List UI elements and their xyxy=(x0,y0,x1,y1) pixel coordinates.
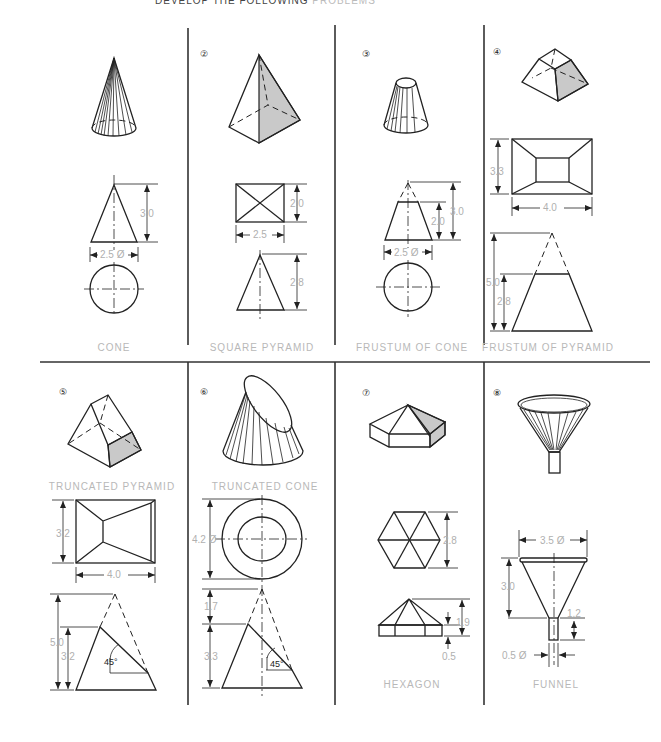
dim-roof-height: 1.9 xyxy=(456,617,470,628)
dim-depth: 3.2 xyxy=(56,528,70,539)
square-pyramid-front-view: 2.8 xyxy=(237,250,307,320)
panel-number: ⑦ xyxy=(362,388,370,398)
truncated-pyramid-pictorial xyxy=(68,395,141,467)
panel-title: FRUSTUM OF CONE xyxy=(356,342,468,353)
dim-width: 4.0 xyxy=(543,202,557,213)
dim-across-flats: 2.8 xyxy=(443,535,457,546)
panel-number: ⑧ xyxy=(493,388,501,398)
funnel-pictorial xyxy=(518,395,590,473)
panel-title: CONE xyxy=(98,342,131,353)
problem-sheet: 3.0 2.5 Ø CONE ② xyxy=(0,0,661,742)
dim-top-diameter: 3.5 Ø xyxy=(540,535,565,546)
dim-diameter: 4.2 Ø xyxy=(192,534,217,545)
square-pyramid-pictorial xyxy=(229,55,300,143)
dim-angle: 45° xyxy=(270,659,284,669)
panel-hexagon: ⑦ 2.8 1.9 xyxy=(362,388,470,690)
frustum-pyramid-pictorial xyxy=(522,49,588,101)
hexagon-pictorial xyxy=(370,405,445,447)
frustum-pyramid-front-view: 5.0 2.8 xyxy=(486,233,592,331)
panel-truncated-pyramid: ⑤ TRUNCATED PYRAMID 3.2 4.0 xyxy=(49,387,175,690)
dim-base-height: 0.5 xyxy=(442,651,456,662)
panel-grid xyxy=(40,25,650,705)
panel-frustum-of-pyramid: ④ 3.3 4.0 xyxy=(482,47,614,353)
panel-number: ③ xyxy=(362,49,370,59)
frustum-cone-top-view xyxy=(376,260,440,317)
truncated-cone-front-view: 1.7 3.3 45° xyxy=(202,586,302,696)
square-pyramid-top-view: 2.0 2.5 xyxy=(236,184,307,243)
cone-top-view xyxy=(84,262,144,316)
dim-depth: 2.0 xyxy=(290,198,304,209)
hexagon-front-view: 1.9 0.5 xyxy=(379,599,470,662)
panel-title: HEXAGON xyxy=(383,679,440,690)
panel-title: TRUNCATED PYRAMID xyxy=(49,481,175,492)
dim-height: 2.8 xyxy=(290,277,304,288)
cone-front-view: 3.0 2.5 Ø xyxy=(90,175,158,262)
panel-number: ⑤ xyxy=(59,387,67,397)
dim-spout-length: 1.2 xyxy=(567,608,581,619)
dim-angle: 45° xyxy=(104,657,118,667)
dim-truncated-height: 3.2 xyxy=(61,651,75,662)
cone-pictorial xyxy=(92,58,136,136)
truncated-pyramid-front-view: 5.0 3.2 45° xyxy=(50,594,156,690)
dim-depth: 3.3 xyxy=(490,166,504,177)
hexagon-top-view: 2.8 xyxy=(378,512,458,568)
panel-square-pyramid: ② 2.0 2.5 xyxy=(200,49,314,353)
panel-title: SQUARE PYRAMID xyxy=(210,342,315,353)
dim-top-offset: 1.7 xyxy=(204,601,218,612)
dim-diameter: 2.5 Ø xyxy=(100,249,125,260)
panel-number: ④ xyxy=(493,47,501,57)
panel-title: TRUNCATED CONE xyxy=(212,481,319,492)
dim-frustum-height: 2.8 xyxy=(497,296,511,307)
frustum-cone-front-view: 2.0 3.0 2.5 Ø xyxy=(384,180,464,260)
frustum-pyramid-top-view: 3.3 4.0 xyxy=(490,139,592,216)
panel-title: FRUSTUM OF PYRAMID xyxy=(482,342,614,353)
panel-number: ⑥ xyxy=(200,387,208,397)
truncated-cone-top-view: 4.2 Ø xyxy=(192,495,307,586)
dim-height: 3.3 xyxy=(204,651,218,662)
dim-width: 2.5 xyxy=(253,229,267,240)
panel-number: ② xyxy=(200,49,208,59)
dim-cone-height: 3.0 xyxy=(501,581,515,592)
funnel-front-view: 3.5 Ø 3.0 1.2 0.5 Ø xyxy=(501,530,587,667)
truncated-cone-pictorial xyxy=(223,369,303,465)
panel-funnel: ⑧ 3.5 Ø xyxy=(493,388,590,690)
dim-diameter: 2.5 Ø xyxy=(394,247,419,258)
dim-full-height: 5.0 xyxy=(486,277,500,288)
truncated-pyramid-top-view: 3.2 4.0 xyxy=(52,500,155,583)
dim-height: 3.0 xyxy=(140,208,154,219)
dim-frustum-height: 2.0 xyxy=(431,216,445,227)
panel-truncated-cone: ⑥ TRUNCATED CONE 4.2 Ø xyxy=(192,369,318,696)
panel-frustum-of-cone: ③ 2.0 3.0 xyxy=(356,49,468,353)
dim-full-height: 5.0 xyxy=(50,637,64,648)
panel-cone: 3.0 2.5 Ø CONE xyxy=(84,58,158,353)
frustum-cone-pictorial xyxy=(384,78,428,133)
dim-full-height: 3.0 xyxy=(450,206,464,217)
dim-spout-diameter: 0.5 Ø xyxy=(502,650,527,661)
panel-title: FUNNEL xyxy=(533,679,579,690)
dim-width: 4.0 xyxy=(107,569,121,580)
